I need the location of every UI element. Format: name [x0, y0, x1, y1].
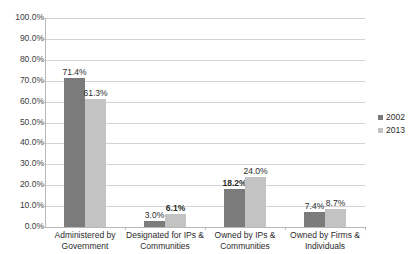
bar-2002-2: [224, 189, 245, 227]
y-axis-tick: [41, 164, 45, 165]
y-axis-tick-label: 60.0%: [3, 97, 44, 106]
bar-2013-1: [165, 214, 186, 227]
x-axis-tick: [365, 227, 366, 230]
category-label-line: Owned by Firms &: [285, 230, 365, 241]
y-axis-tick-label: 40.0%: [3, 138, 44, 147]
y-axis-tick-label: 50.0%: [3, 118, 44, 127]
y-axis-tick: [41, 227, 45, 228]
x-axis-category-label: Owned by Firms &Individuals: [285, 230, 365, 252]
bar-2013-3: [325, 209, 346, 227]
y-axis-tick: [41, 39, 45, 40]
bar-2002-3: [304, 212, 325, 227]
bar-value-label: 61.3%: [79, 88, 112, 98]
y-axis-tick-label: 0.0%: [3, 222, 44, 231]
bar-group: 71.4%61.3%: [45, 18, 125, 227]
x-axis-category-labels: Administered byGovernmentDesignated for …: [45, 230, 365, 254]
bar-chart: 100.0%90.0%80.0%70.0%60.0%50.0%40.0%30.0…: [0, 0, 414, 254]
category-label-line: Administered by: [45, 230, 125, 241]
y-axis-tick: [41, 60, 45, 61]
legend-swatch-icon: [378, 128, 383, 133]
y-axis-line: [45, 18, 46, 228]
legend-item-2013[interactable]: 2013: [378, 124, 414, 137]
bar-group: 18.2%24.0%: [205, 18, 285, 227]
bar-value-label: 6.1%: [159, 203, 192, 213]
category-label-line: Communities: [205, 241, 285, 252]
x-axis-category-label: Designated for IPs &Communities: [125, 230, 205, 252]
bar-group: 3.0%6.1%: [125, 18, 205, 227]
bar-2002-0: [64, 78, 85, 227]
y-axis-tick: [41, 81, 45, 82]
category-label-line: Communities: [125, 241, 205, 252]
x-axis-category-label: Owned by IPs &Communities: [205, 230, 285, 252]
x-axis-category-label: Administered byGovernment: [45, 230, 125, 252]
y-axis-tick: [41, 102, 45, 103]
y-axis-tick: [41, 123, 45, 124]
chart-legend: 20022013: [378, 111, 414, 137]
bar-value-label: 24.0%: [239, 166, 272, 176]
y-axis-tick-label: 10.0%: [3, 201, 44, 210]
x-axis-tick: [285, 227, 286, 230]
y-axis-tick: [41, 18, 45, 19]
y-axis-tick-label: 80.0%: [3, 55, 44, 64]
y-axis-tick: [41, 185, 45, 186]
category-label-line: Government: [45, 241, 125, 252]
bar-2013-2: [245, 177, 266, 227]
y-axis-tick-label: 100.0%: [3, 13, 44, 22]
legend-item-2002[interactable]: 2002: [378, 111, 414, 124]
y-axis-tick: [41, 143, 45, 144]
bar-value-label: 8.7%: [319, 198, 352, 208]
legend-label: 2002: [386, 113, 405, 122]
y-axis-tick: [41, 206, 45, 207]
x-axis-tick: [205, 227, 206, 230]
x-axis-tick: [125, 227, 126, 230]
y-axis-tick-label: 20.0%: [3, 180, 44, 189]
y-axis-tick-label: 70.0%: [3, 76, 44, 85]
category-label-line: Individuals: [285, 241, 365, 252]
plot-area: 71.4%61.3%3.0%6.1%18.2%24.0%7.4%8.7%: [45, 18, 365, 227]
bar-value-label: 71.4%: [58, 67, 91, 77]
category-label-line: Designated for IPs &: [125, 230, 205, 241]
bar-2013-0: [85, 99, 106, 227]
y-axis-labels: 100.0%90.0%80.0%70.0%60.0%50.0%40.0%30.0…: [0, 0, 44, 254]
bar-group: 7.4%8.7%: [285, 18, 365, 227]
legend-swatch-icon: [378, 115, 383, 120]
y-axis-tick-label: 30.0%: [3, 159, 44, 168]
legend-label: 2013: [386, 126, 405, 135]
y-axis-tick-label: 90.0%: [3, 34, 44, 43]
category-label-line: Owned by IPs &: [205, 230, 285, 241]
